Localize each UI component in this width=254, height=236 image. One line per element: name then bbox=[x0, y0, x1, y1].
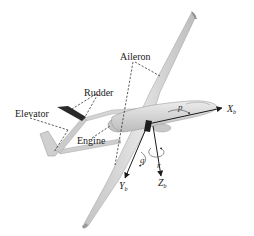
rudder-fin bbox=[57, 106, 86, 121]
elevator-fin bbox=[40, 131, 60, 156]
x-axis-label: Xb bbox=[226, 103, 236, 115]
y-axis-label: Yb bbox=[119, 180, 128, 192]
yaw-rate-label: r bbox=[157, 160, 161, 170]
z-axis-label: Zb bbox=[158, 177, 167, 189]
aileron-label: Aileron bbox=[120, 51, 151, 62]
elevator-label: Elevator bbox=[15, 108, 50, 119]
pitch-rate-label: q bbox=[140, 155, 145, 165]
roll-rate-label: p bbox=[177, 102, 183, 112]
airframe bbox=[40, 11, 217, 229]
uav-diagram: Aileron Rudder Elevator Engine Xb Yb Zb … bbox=[0, 0, 254, 236]
ventral-pod bbox=[153, 124, 171, 132]
engine-label: Engine bbox=[77, 135, 106, 146]
rudder-label: Rudder bbox=[84, 87, 114, 98]
elevator-leader bbox=[30, 118, 68, 130]
aileron-leader-upper bbox=[135, 62, 160, 76]
